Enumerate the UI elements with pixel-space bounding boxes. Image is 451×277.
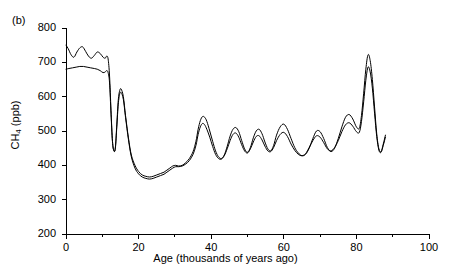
y-axis-title-sub: 4 (14, 129, 23, 133)
y-axis-tick-label: 700 (22, 56, 56, 67)
y-axis-tick-label: 800 (22, 22, 56, 33)
y-axis-tick-label: 400 (22, 159, 56, 170)
y-axis-tick-label: 500 (22, 125, 56, 136)
y-axis-tick-label: 600 (22, 91, 56, 102)
x-axis-title: Age (thousands of years ago) (0, 252, 451, 264)
y-axis-title: CH4 (ppb) (9, 75, 23, 175)
plot-area (0, 0, 451, 277)
y-axis-tick-label: 300 (22, 194, 56, 205)
y-axis-title-post: (ppb) (9, 100, 21, 129)
series-line-record-1 (66, 45, 385, 177)
series-line-record-2 (66, 66, 385, 179)
chart-figure: (b) 200300400500600700800 020406080100 A… (0, 0, 451, 277)
y-axis-title-pre: CH (9, 134, 21, 150)
y-axis-tick-label: 200 (22, 228, 56, 239)
